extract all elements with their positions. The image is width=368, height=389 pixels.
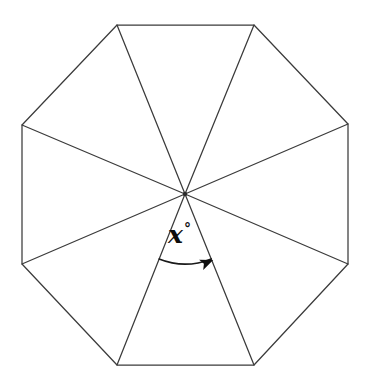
octagon-diagram-svg <box>0 0 368 389</box>
centre-point <box>183 192 187 196</box>
angle-arrow-head <box>199 260 213 270</box>
angle-variable-text: x <box>168 220 183 249</box>
angle-label-x-degrees: x° <box>168 222 191 247</box>
spoke-to-left-upper <box>22 125 185 194</box>
spoke-to-top-left <box>117 25 185 194</box>
spoke-to-left-lower <box>22 194 185 264</box>
angle-marker <box>159 259 213 270</box>
geometry-figure: x° <box>0 0 368 389</box>
degree-symbol: ° <box>184 221 191 237</box>
